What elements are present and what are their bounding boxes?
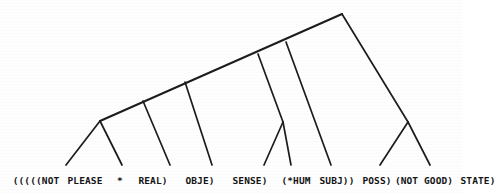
leaf-open-parens-not: (((((NOT — [13, 175, 60, 187]
leaf-star: * — [117, 175, 123, 187]
leaf-please: PLEASE — [68, 175, 103, 187]
leaf-real: REAL) — [138, 175, 167, 187]
leaf-poss: POSS) — [362, 175, 391, 187]
leaf-obje: OBJE) — [185, 175, 214, 187]
leaf-sense: SENSE) — [233, 175, 268, 187]
leaf-subj: SUBJ)) — [320, 175, 355, 187]
leaf-hum: (*HUM — [281, 175, 310, 187]
leaf-not-good: (NOT GOOD) — [395, 175, 453, 187]
leaf-state: STATE) — [461, 175, 495, 187]
